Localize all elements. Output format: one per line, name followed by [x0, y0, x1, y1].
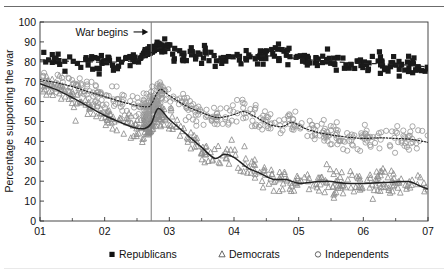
data-point — [170, 52, 175, 57]
data-point — [322, 189, 328, 195]
y-tick-label: 10 — [24, 195, 36, 207]
data-point — [181, 58, 186, 63]
data-point — [334, 68, 339, 73]
data-point — [271, 188, 277, 194]
legend-item-independents: Independents — [315, 248, 388, 260]
x-tick-label: 04 — [228, 225, 240, 237]
data-point — [372, 140, 377, 145]
data-point — [327, 56, 332, 61]
data-point — [106, 55, 111, 60]
data-point — [410, 140, 415, 145]
data-point — [410, 124, 415, 129]
data-point — [370, 196, 376, 202]
data-point — [128, 63, 133, 68]
data-point — [162, 36, 167, 41]
data-point — [220, 121, 225, 126]
data-point — [405, 59, 410, 64]
data-point — [229, 137, 235, 143]
data-point — [331, 56, 336, 61]
data-point — [211, 53, 216, 58]
data-point — [401, 128, 406, 133]
data-point — [378, 71, 383, 76]
data-point — [421, 180, 427, 186]
data-point — [286, 46, 291, 51]
data-point — [85, 111, 91, 117]
data-point — [189, 45, 194, 50]
data-point — [244, 57, 249, 62]
scatter-republicans — [41, 36, 430, 78]
data-point — [135, 95, 140, 100]
data-point — [332, 62, 337, 67]
data-point — [324, 161, 330, 167]
data-point — [78, 65, 83, 70]
data-point — [214, 58, 219, 63]
y-tick-label: 70 — [24, 76, 36, 88]
chart-legend: RepublicansDemocratsIndependents — [109, 248, 388, 260]
data-point — [242, 143, 248, 149]
data-point — [393, 129, 398, 134]
data-point — [391, 54, 396, 59]
data-point — [116, 57, 121, 62]
data-point — [349, 172, 355, 178]
data-point — [340, 55, 345, 60]
data-point — [57, 62, 62, 67]
data-point — [269, 47, 274, 52]
data-point — [397, 74, 402, 79]
y-tick-label: 90 — [24, 36, 36, 48]
data-point — [377, 146, 382, 151]
data-point — [172, 56, 177, 61]
data-point — [199, 61, 204, 66]
data-point — [305, 133, 310, 138]
war-begins-annotation: War begins — [76, 26, 149, 38]
data-point — [383, 65, 388, 70]
data-point — [110, 126, 116, 132]
data-point — [232, 147, 238, 153]
data-point — [275, 47, 280, 52]
x-tick-label: 05 — [293, 225, 305, 237]
data-point — [378, 62, 383, 67]
data-point — [366, 67, 371, 72]
data-point — [406, 54, 411, 59]
data-point — [293, 109, 298, 114]
data-point — [204, 107, 209, 112]
data-point — [259, 178, 265, 184]
war-begins-label: War begins — [76, 26, 129, 38]
data-point — [123, 56, 128, 61]
y-tick-label: 60 — [24, 95, 36, 107]
data-point — [226, 54, 231, 59]
data-point — [325, 46, 330, 51]
data-point — [392, 150, 397, 155]
data-point — [50, 92, 56, 98]
x-tick-label: 02 — [99, 225, 111, 237]
data-point — [50, 52, 55, 57]
data-point — [395, 130, 400, 135]
x-tick-label: 06 — [357, 225, 369, 237]
y-axis-title-group: Percentage supporting the war — [3, 49, 15, 193]
data-point — [280, 47, 285, 52]
data-point — [348, 168, 354, 174]
data-point — [162, 49, 167, 54]
data-point — [396, 140, 401, 145]
data-point — [81, 91, 86, 96]
data-point — [396, 59, 401, 64]
data-point — [277, 123, 282, 128]
data-point — [340, 190, 346, 196]
data-point — [260, 184, 266, 190]
legend-label: Democrats — [229, 248, 280, 260]
y-tick-label: 50 — [24, 115, 36, 127]
data-point — [111, 68, 116, 73]
data-point — [252, 124, 257, 129]
data-point — [384, 128, 389, 133]
data-point — [62, 69, 67, 74]
data-point — [276, 41, 281, 46]
war-begins-arrowhead — [142, 29, 148, 35]
legend-label: Independents — [325, 248, 389, 260]
data-point — [202, 43, 207, 48]
data-point — [97, 71, 102, 76]
data-point — [378, 54, 383, 59]
data-point — [406, 69, 411, 74]
data-point — [218, 106, 223, 111]
data-point — [320, 54, 325, 59]
data-point — [316, 188, 322, 194]
data-point — [262, 49, 267, 54]
